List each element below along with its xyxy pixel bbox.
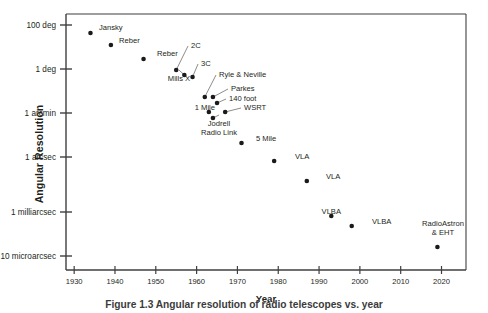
figure-caption: Figure 1.3 Angular resolution of radio t… bbox=[0, 299, 488, 313]
leader-line bbox=[213, 89, 228, 97]
data-point-label: Ryle & Neville bbox=[219, 70, 266, 79]
y-tick-label: 1 deg bbox=[0, 65, 56, 74]
leader-line bbox=[205, 75, 216, 97]
x-tick-label: 1970 bbox=[229, 277, 246, 286]
data-point-label: Jansky bbox=[99, 23, 123, 32]
figure-container: Angular Resolution 100 deg1 deg1 arcmin1… bbox=[0, 0, 488, 313]
data-point bbox=[211, 95, 216, 100]
y-tick-label: 1 milliarcsec bbox=[0, 208, 56, 217]
data-point-label: VLA bbox=[326, 172, 340, 181]
data-point-label: VLA bbox=[295, 152, 309, 161]
data-point bbox=[435, 245, 440, 250]
data-point bbox=[272, 159, 277, 164]
y-tick-label: 100 deg bbox=[0, 21, 56, 30]
data-point-label: 2C bbox=[191, 41, 201, 50]
x-tick-label: 1950 bbox=[147, 277, 164, 286]
y-tick-label: 1 arcmin bbox=[0, 109, 56, 118]
y-tick-label: 10 microarcsec bbox=[0, 252, 56, 261]
x-tick-label: 1990 bbox=[311, 277, 328, 286]
x-tick-label: 2000 bbox=[351, 277, 368, 286]
data-point-label: 1 Mile bbox=[195, 103, 215, 112]
data-point-label: 140 foot bbox=[229, 94, 256, 103]
data-point bbox=[215, 101, 220, 106]
x-tick-label: 1980 bbox=[270, 277, 287, 286]
data-point-label: WSRT bbox=[244, 103, 266, 112]
data-point-label: Parkes bbox=[231, 84, 255, 93]
leader-line bbox=[225, 108, 241, 112]
data-point bbox=[305, 179, 310, 184]
x-tick-label: 1960 bbox=[188, 277, 205, 286]
data-point bbox=[239, 141, 244, 146]
x-tick-label: 1930 bbox=[66, 277, 83, 286]
data-point bbox=[202, 95, 207, 100]
data-point-label: Mills X bbox=[168, 74, 190, 83]
data-point-label: Reber bbox=[157, 49, 178, 58]
x-tick-label: 1940 bbox=[107, 277, 124, 286]
data-point-label: 3C bbox=[201, 59, 211, 68]
data-point bbox=[88, 31, 93, 36]
data-point bbox=[190, 75, 195, 80]
data-point-label: Reber bbox=[119, 36, 140, 45]
y-tick-label: 1 arcsec bbox=[0, 153, 56, 162]
x-tick-label: 2020 bbox=[433, 277, 450, 286]
data-point-label: JodrellRadio Link bbox=[201, 119, 237, 138]
data-point bbox=[349, 224, 354, 229]
data-point bbox=[141, 57, 146, 62]
x-tick-label: 2010 bbox=[392, 277, 409, 286]
data-point-label: 5 Mile bbox=[256, 134, 276, 143]
data-point bbox=[109, 43, 114, 48]
data-point bbox=[223, 110, 228, 115]
data-point-label: RadioAstron& EHT bbox=[422, 219, 464, 238]
data-point-label: VLBA bbox=[322, 207, 341, 216]
data-point-label: VLBA bbox=[372, 217, 391, 226]
data-point bbox=[174, 68, 179, 73]
chart-plot-area bbox=[0, 0, 488, 313]
